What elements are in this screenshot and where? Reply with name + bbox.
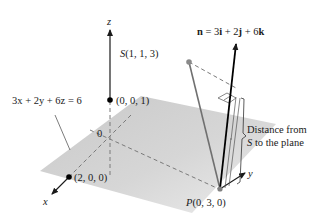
point-s-coords: (1, 1, 3) xyxy=(125,48,159,60)
point-s xyxy=(186,59,192,65)
y-axis-label: y xyxy=(247,168,253,179)
point-p xyxy=(217,186,222,191)
x-intercept-label: (2, 0, 0) xyxy=(74,172,108,184)
plane-equation-leader xyxy=(55,115,70,150)
point-s-label: S(1, 1, 3) xyxy=(120,48,159,60)
s-to-n-dashed xyxy=(189,62,236,88)
normal-vector-label: n = 3i + 2j + 6k xyxy=(197,26,265,37)
x-axis-label: x xyxy=(42,196,48,207)
x-axis xyxy=(52,177,69,194)
z-intercept-label: (0, 0, 1) xyxy=(116,95,150,107)
point-p-label: P(0, 3, 0) xyxy=(185,197,226,209)
z-axis-label: z xyxy=(106,16,111,27)
point-x-intercept xyxy=(66,174,72,180)
point-p-coords: (0, 3, 0) xyxy=(192,197,226,209)
distance-point-plane-diagram: z x y 3x + 2y + 6z = 6 (0, 0, 1) (2, 0, … xyxy=(0,0,320,220)
plane-surface xyxy=(40,96,276,213)
distance-annotation-line1: Distance from xyxy=(247,124,307,135)
point-z-intercept xyxy=(107,97,113,103)
origin-label: 0 xyxy=(97,128,102,139)
plane-equation-label: 3x + 2y + 6z = 6 xyxy=(12,95,82,106)
distance-annotation-line2: S to the plane xyxy=(247,137,304,148)
